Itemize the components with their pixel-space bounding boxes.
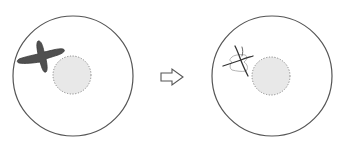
thin-crossed-structure [223,46,253,76]
panel-before [13,16,133,136]
panel-after [212,16,332,136]
nucleus-before [53,56,91,94]
right-arrow-icon [161,69,183,85]
crossing-line-2 [223,56,253,66]
nucleus-after [252,57,290,95]
diagram-canvas [0,0,345,147]
diagram [0,0,345,147]
transform-arrow [161,69,183,85]
crossing-line-3 [242,47,243,56]
